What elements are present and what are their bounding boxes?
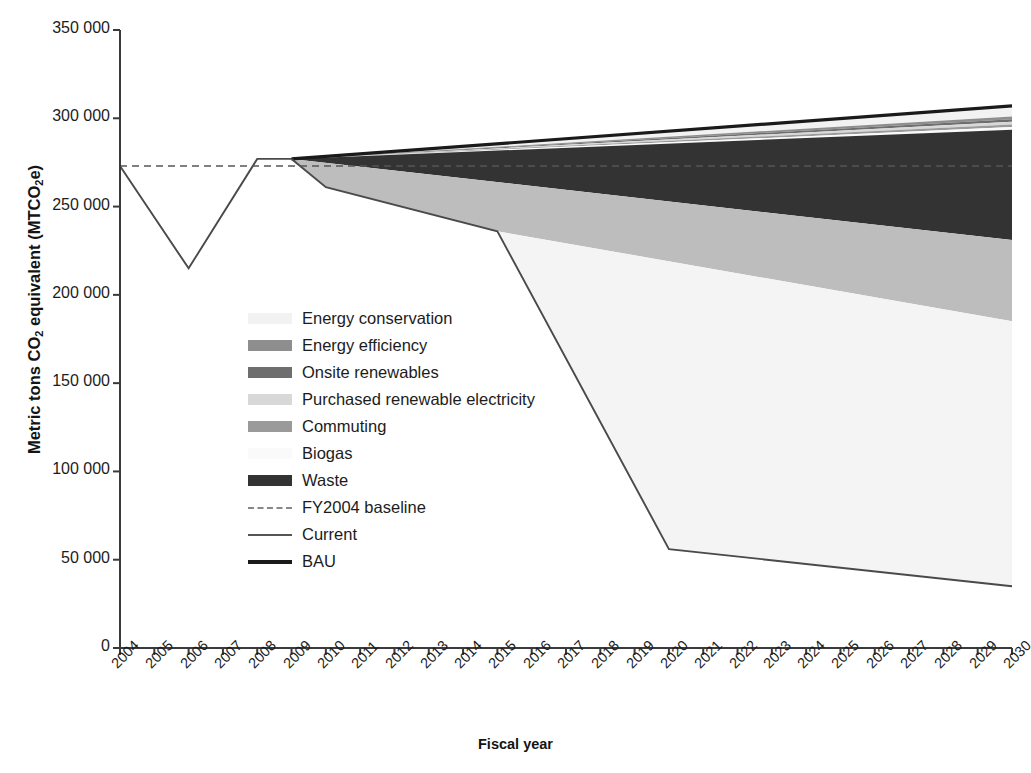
legend-item-label: Commuting — [302, 418, 386, 435]
y-tick-label: 250 000 — [0, 196, 110, 214]
legend-item[interactable]: Purchased renewable electricity — [248, 386, 535, 413]
legend-item-label: Energy conservation — [302, 310, 452, 327]
legend-item-label: BAU — [302, 553, 336, 570]
y-tick-label: 100 000 — [0, 460, 110, 478]
legend-swatch-icon — [248, 394, 292, 405]
legend-item-label: Onsite renewables — [302, 364, 439, 381]
y-tick-label: 200 000 — [0, 284, 110, 302]
chart-root: Metric tons CO2 equivalent (MTCO2e) Fisc… — [0, 0, 1031, 773]
y-tick-label: 300 000 — [0, 107, 110, 125]
x-axis-label: Fiscal year — [0, 736, 1031, 752]
legend-item[interactable]: BAU — [248, 548, 535, 575]
legend-item-label: Energy efficiency — [302, 337, 427, 354]
legend-item[interactable]: Waste — [248, 467, 535, 494]
legend-swatch-icon — [248, 448, 292, 459]
legend-swatch-icon — [248, 507, 292, 509]
y-tick-label: 150 000 — [0, 372, 110, 390]
y-tick-label: 50 000 — [0, 549, 110, 567]
legend-swatch-icon — [248, 534, 292, 536]
legend-item[interactable]: Onsite renewables — [248, 359, 535, 386]
legend-swatch-icon — [248, 367, 292, 378]
legend-item-label: Purchased renewable electricity — [302, 391, 535, 408]
legend-swatch-icon — [248, 340, 292, 351]
legend-item-label: Waste — [302, 472, 348, 489]
legend-item[interactable]: Biogas — [248, 440, 535, 467]
legend-item-label: FY2004 baseline — [302, 499, 426, 516]
legend-item[interactable]: Current — [248, 521, 535, 548]
y-tick-label: 350 000 — [0, 19, 110, 37]
legend-item-label: Biogas — [302, 445, 352, 462]
chart-legend: Energy conservationEnergy efficiencyOnsi… — [248, 305, 535, 575]
legend-swatch-icon — [248, 475, 292, 486]
legend-item[interactable]: FY2004 baseline — [248, 494, 535, 521]
legend-item[interactable]: Energy conservation — [248, 305, 535, 332]
legend-item-label: Current — [302, 526, 357, 543]
legend-swatch-icon — [248, 313, 292, 324]
legend-swatch-icon — [248, 421, 292, 432]
legend-item[interactable]: Energy efficiency — [248, 332, 535, 359]
y-tick-label: 0 — [0, 637, 110, 655]
legend-item[interactable]: Commuting — [248, 413, 535, 440]
legend-swatch-icon — [248, 560, 292, 564]
